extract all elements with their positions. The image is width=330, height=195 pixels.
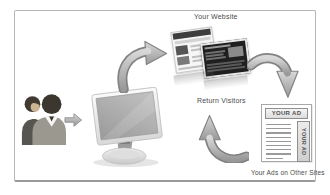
top-ad-banner: YOUR AD: [265, 108, 308, 119]
thumb-image-block: [177, 56, 190, 66]
visitors-people-icon: [20, 93, 66, 145]
curved-arrow-down-icon: [247, 52, 301, 103]
ad-text-line: [266, 141, 291, 142]
side-ad-banner: YOUR AD: [297, 121, 310, 162]
thumb-image-block: [175, 45, 188, 56]
ad-text-line: [266, 124, 291, 125]
your-website-label: Your Website: [194, 13, 238, 20]
ad-text-line: [266, 153, 291, 154]
return-visitors-label: Return Visitors: [197, 97, 246, 104]
side-ad-banner-text: YOUR AD: [301, 128, 307, 155]
curved-arrow-up-icon: [197, 109, 249, 163]
ads-on-other-sites-label: Your Ads on Other Sites: [251, 169, 325, 176]
ad-text-line: [266, 132, 291, 133]
right-arrow-icon: [64, 111, 83, 129]
ad-text-line: [266, 149, 291, 150]
ad-text-line: [266, 145, 291, 146]
ad-text-line: [266, 137, 291, 138]
retargeting-diagram: Your Website Return Visitors: [0, 0, 330, 195]
thumb-text-line: [206, 56, 226, 60]
ad-text-line: [266, 158, 283, 159]
thumb-hero-block: [228, 46, 244, 58]
ads-page-mockup: YOUR AD YOUR AD: [261, 104, 312, 162]
ad-text-line: [266, 128, 291, 129]
computer-monitor-icon: [88, 87, 166, 169]
ad-text-lines: [266, 124, 291, 162]
curved-arrow-upright-icon: [116, 38, 169, 93]
